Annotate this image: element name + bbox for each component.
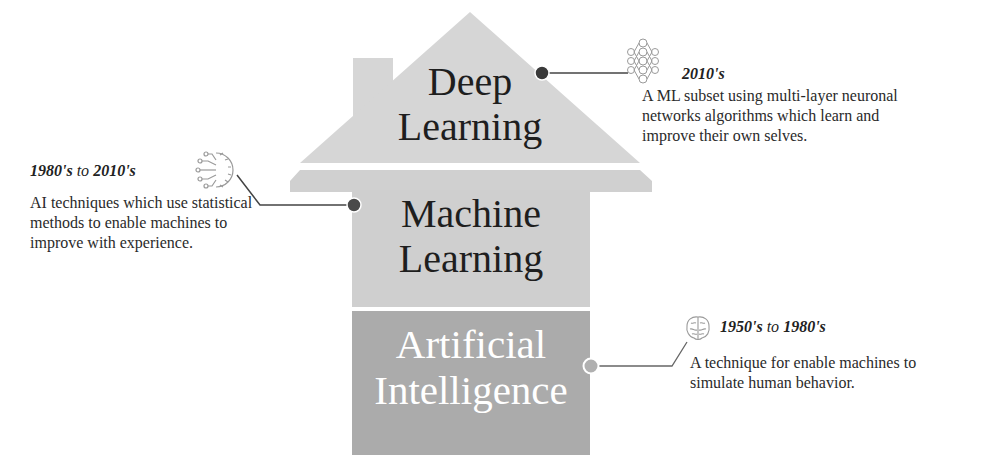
machine-learning-annotation: 1980's to 2010's AI techniques which use… xyxy=(30,161,280,253)
ml-era-to-word: to xyxy=(77,162,89,179)
ai-title-line2: Intelligence xyxy=(352,368,590,414)
ai-era: 1950's to 1980's xyxy=(720,317,970,337)
deep-learning-title-line1: Deep xyxy=(372,60,568,105)
deep-learning-title-line2: Learning xyxy=(372,105,568,150)
machine-learning-title: Machine Learning xyxy=(352,192,590,282)
ai-era-to-word: to xyxy=(767,318,779,335)
ai-description: A technique for enable machines to simul… xyxy=(690,353,970,393)
ml-era-to: 2010's xyxy=(93,162,136,179)
ai-era-to: 1980's xyxy=(783,318,826,335)
deep-learning-description: A ML subset using multi-layer neuronal n… xyxy=(642,86,902,146)
ml-era-from: 1980's xyxy=(30,162,73,179)
machine-learning-title-line1: Machine xyxy=(352,192,590,237)
ai-annotation: 1950's to 1980's A technique for enable … xyxy=(690,317,970,393)
ai-title: Artificial Intelligence xyxy=(352,322,590,414)
deep-learning-annotation: 2010's A ML subset using multi-layer neu… xyxy=(642,64,902,146)
machine-learning-era: 1980's to 2010's xyxy=(30,161,280,181)
deep-learning-era: 2010's xyxy=(682,64,902,84)
ai-title-line1: Artificial xyxy=(352,322,590,368)
ai-connector-line xyxy=(598,342,687,366)
machine-learning-description: AI techniques which use statistical meth… xyxy=(30,193,265,253)
deep-learning-title: Deep Learning xyxy=(372,60,568,150)
machine-learning-title-line2: Learning xyxy=(352,237,590,282)
ai-era-from: 1950's xyxy=(720,318,763,335)
